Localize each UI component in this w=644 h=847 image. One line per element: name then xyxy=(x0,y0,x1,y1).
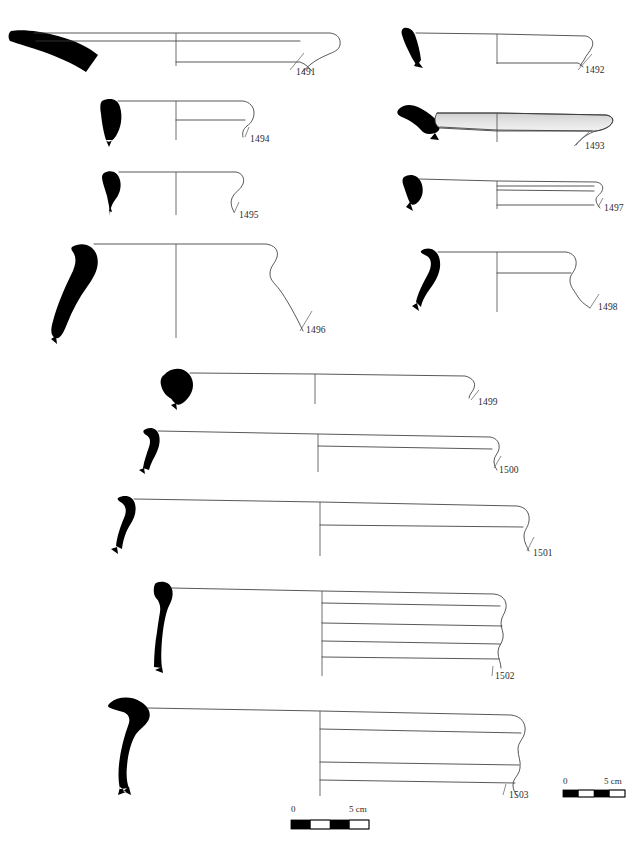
scale-bar-lower-zero: 0 xyxy=(291,804,296,814)
scale-bar-lower-max: 5 cm xyxy=(349,804,367,814)
scale-bar-right-zero: 0 xyxy=(563,776,568,786)
figure-label-1494: 1494 xyxy=(250,134,270,144)
scale-bar-lower-seg-4 xyxy=(350,820,370,829)
figure-label-1491: 1491 xyxy=(296,67,316,77)
scale-bar-right-seg-1 xyxy=(563,790,579,797)
scale-bar-right-seg-2 xyxy=(579,790,595,797)
figure-label-1503: 1503 xyxy=(509,790,529,800)
scale-bar-lower-seg-3 xyxy=(330,820,350,829)
figure-label-1496: 1496 xyxy=(306,325,326,335)
figure-label-1502: 1502 xyxy=(495,671,515,681)
figure-label-1498: 1498 xyxy=(598,302,618,312)
figure-label-1499: 1499 xyxy=(478,397,498,407)
scale-bar-lower-seg-1 xyxy=(291,820,311,829)
figure-label-1501: 1501 xyxy=(533,548,553,558)
figure-label-1495: 1495 xyxy=(239,210,259,220)
scale-bar-lower-seg-2 xyxy=(311,820,331,829)
figure-label-1497: 1497 xyxy=(604,203,624,213)
pottery-profile-plate: 1491 1492 1494 1493 1495 xyxy=(0,0,644,847)
scale-bar-right-max: 5 cm xyxy=(604,776,622,786)
figure-label-1492: 1492 xyxy=(585,65,605,75)
scale-bar-right-seg-3 xyxy=(594,790,610,797)
figure-label-1493: 1493 xyxy=(585,141,605,151)
scale-bar-right-seg-4 xyxy=(610,790,626,797)
figure-label-1500: 1500 xyxy=(499,465,519,475)
